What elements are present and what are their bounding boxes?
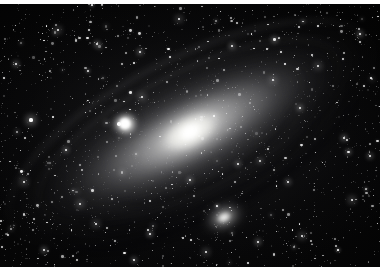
star	[114, 240, 116, 242]
star	[154, 6, 155, 7]
star	[90, 33, 91, 34]
star	[377, 223, 378, 224]
star	[169, 56, 171, 58]
star	[270, 162, 271, 163]
star	[15, 167, 17, 169]
star	[278, 231, 279, 232]
star	[340, 25, 343, 28]
star	[375, 170, 377, 172]
star	[195, 95, 197, 97]
star	[231, 232, 233, 234]
star	[165, 52, 166, 53]
star	[145, 48, 146, 49]
star	[105, 131, 106, 132]
bright-star	[272, 79, 275, 82]
star	[204, 173, 205, 174]
star	[43, 40, 44, 41]
star	[42, 33, 43, 34]
photograph-page	[0, 0, 392, 273]
star	[286, 251, 287, 252]
star	[251, 215, 252, 216]
star	[155, 187, 156, 188]
star	[334, 238, 336, 240]
star	[345, 187, 346, 188]
star	[355, 39, 356, 40]
star	[284, 63, 285, 64]
star	[103, 85, 105, 87]
star	[61, 62, 62, 63]
star	[90, 162, 91, 163]
star-field-foreground	[0, 4, 380, 267]
star	[20, 42, 22, 44]
star	[74, 35, 75, 36]
star	[250, 99, 251, 100]
star	[215, 20, 217, 22]
star	[276, 185, 278, 187]
star	[247, 139, 248, 140]
star	[39, 154, 40, 155]
star	[72, 255, 74, 257]
star	[282, 209, 284, 211]
star	[4, 56, 6, 58]
star	[186, 90, 188, 92]
star	[373, 67, 376, 70]
star	[98, 78, 100, 80]
star	[310, 240, 311, 241]
star	[73, 9, 74, 10]
star	[171, 184, 172, 185]
star	[1, 246, 4, 249]
bright-star	[213, 115, 215, 117]
star	[52, 116, 53, 117]
star	[273, 38, 276, 41]
star	[48, 156, 50, 158]
bright-star	[15, 63, 17, 65]
star	[276, 181, 278, 183]
star	[115, 155, 116, 156]
star	[105, 47, 107, 49]
star	[377, 16, 379, 18]
star	[106, 141, 107, 142]
star	[307, 96, 308, 97]
star	[322, 162, 323, 163]
star	[32, 229, 34, 231]
star	[369, 143, 371, 145]
star	[266, 48, 267, 49]
star	[151, 180, 152, 181]
star	[335, 156, 336, 157]
star	[34, 223, 35, 224]
star	[160, 196, 161, 197]
star	[215, 76, 216, 77]
star	[105, 232, 106, 233]
star	[167, 48, 169, 50]
star	[296, 68, 299, 71]
star	[38, 32, 39, 33]
star	[161, 171, 163, 173]
star	[20, 170, 23, 173]
star	[121, 63, 123, 65]
star	[232, 87, 233, 88]
star	[22, 174, 23, 175]
star	[201, 152, 203, 154]
star	[138, 103, 139, 104]
star	[170, 120, 173, 123]
star	[340, 30, 343, 33]
star	[10, 228, 12, 230]
star	[87, 70, 89, 72]
star	[20, 74, 21, 75]
star	[185, 235, 186, 236]
star	[15, 25, 17, 27]
star	[209, 15, 210, 16]
star	[110, 245, 111, 246]
star	[278, 37, 280, 39]
star	[49, 162, 51, 164]
star	[95, 108, 96, 109]
star	[333, 25, 334, 26]
page-margin-right	[380, 0, 392, 273]
star	[46, 25, 47, 26]
star	[89, 21, 92, 24]
bright-star	[23, 181, 26, 184]
star	[201, 137, 204, 140]
bright-star	[369, 155, 371, 157]
star	[115, 36, 116, 37]
star	[253, 106, 254, 107]
